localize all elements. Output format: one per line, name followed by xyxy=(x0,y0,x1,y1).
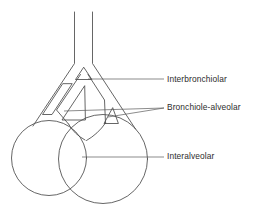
daughter-bronchiole-left-inner-wall xyxy=(57,75,81,125)
alveolar-sac-left xyxy=(12,121,87,196)
airway-left-wall-outer xyxy=(33,12,75,126)
figure-root: Interbronchiolar Bronchiole-alveolar Int… xyxy=(0,0,258,210)
label-bronchiole-alveolar: Bronchiole-alveolar xyxy=(167,103,241,111)
bronchiole-alveolar-pore-left-channel xyxy=(43,84,73,115)
daughter-bronchiole-right-inner-wall xyxy=(88,75,106,124)
label-interalveolar: Interalveolar xyxy=(167,152,214,160)
interalveolar-septum-arc-left xyxy=(69,124,86,140)
label-interbronchiolar: Interbronchiolar xyxy=(167,75,227,83)
alveolar-duct-septum-left xyxy=(62,86,85,120)
interalveolar-septum-arc-right xyxy=(87,123,106,141)
